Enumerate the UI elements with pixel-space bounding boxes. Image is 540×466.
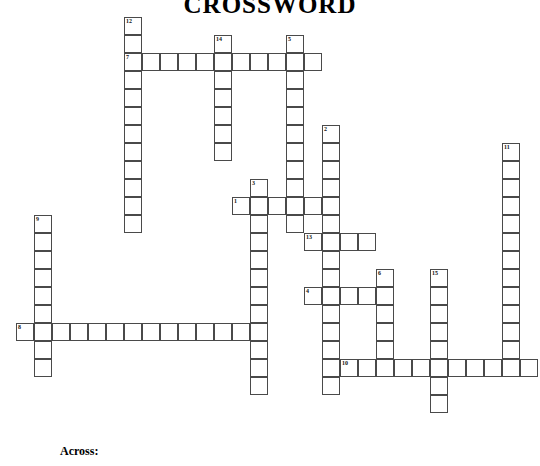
crossword-cell[interactable] (250, 341, 268, 359)
crossword-cell[interactable] (124, 71, 142, 89)
crossword-cell[interactable] (214, 125, 232, 143)
crossword-cell[interactable] (34, 251, 52, 269)
crossword-cell[interactable] (124, 35, 142, 53)
crossword-cell[interactable] (430, 341, 448, 359)
crossword-cell[interactable] (70, 323, 88, 341)
crossword-cell[interactable] (268, 197, 286, 215)
crossword-cell[interactable] (502, 179, 520, 197)
crossword-cell[interactable] (124, 215, 142, 233)
crossword-cell[interactable] (232, 323, 250, 341)
crossword-cell[interactable] (124, 143, 142, 161)
crossword-cell[interactable] (286, 107, 304, 125)
crossword-cell[interactable] (340, 233, 358, 251)
crossword-cell[interactable] (124, 89, 142, 107)
crossword-cell[interactable] (502, 233, 520, 251)
crossword-cell[interactable] (322, 233, 340, 251)
crossword-cell[interactable] (34, 269, 52, 287)
crossword-cell[interactable]: 4 (304, 287, 322, 305)
crossword-cell[interactable] (250, 323, 268, 341)
crossword-cell[interactable] (502, 323, 520, 341)
crossword-cell[interactable] (178, 53, 196, 71)
crossword-cell[interactable] (358, 287, 376, 305)
crossword-cell[interactable] (502, 341, 520, 359)
crossword-cell[interactable] (322, 305, 340, 323)
crossword-cell[interactable]: 2 (322, 125, 340, 143)
crossword-cell[interactable] (286, 197, 304, 215)
crossword-cell[interactable] (250, 251, 268, 269)
crossword-cell[interactable]: 1 (232, 197, 250, 215)
crossword-cell[interactable] (286, 143, 304, 161)
crossword-cell[interactable] (502, 251, 520, 269)
crossword-cell[interactable] (376, 287, 394, 305)
crossword-cell[interactable] (430, 395, 448, 413)
crossword-cell[interactable] (214, 323, 232, 341)
crossword-cell[interactable] (160, 323, 178, 341)
crossword-cell[interactable] (178, 323, 196, 341)
crossword-cell[interactable] (142, 323, 160, 341)
crossword-cell[interactable] (214, 71, 232, 89)
crossword-cell[interactable] (322, 269, 340, 287)
crossword-cell[interactable] (520, 359, 538, 377)
crossword-cell[interactable] (502, 269, 520, 287)
crossword-cell[interactable] (286, 215, 304, 233)
crossword-cell[interactable] (304, 53, 322, 71)
crossword-cell[interactable] (430, 359, 448, 377)
crossword-cell[interactable] (34, 287, 52, 305)
crossword-cell[interactable] (286, 53, 304, 71)
crossword-cell[interactable] (34, 359, 52, 377)
crossword-cell[interactable]: 5 (286, 35, 304, 53)
crossword-cell[interactable] (358, 359, 376, 377)
crossword-cell[interactable] (322, 377, 340, 395)
crossword-cell[interactable] (88, 323, 106, 341)
crossword-cell[interactable] (124, 161, 142, 179)
crossword-grid[interactable]: 127145211319136154810 (0, 0, 540, 430)
crossword-cell[interactable] (430, 323, 448, 341)
crossword-cell[interactable] (196, 323, 214, 341)
crossword-cell[interactable] (214, 53, 232, 71)
crossword-cell[interactable] (286, 161, 304, 179)
crossword-cell[interactable] (430, 305, 448, 323)
crossword-cell[interactable] (142, 53, 160, 71)
crossword-cell[interactable] (340, 287, 358, 305)
crossword-cell[interactable]: 10 (340, 359, 358, 377)
crossword-cell[interactable] (34, 341, 52, 359)
crossword-cell[interactable] (322, 359, 340, 377)
crossword-cell[interactable] (250, 377, 268, 395)
crossword-cell[interactable] (250, 305, 268, 323)
crossword-cell[interactable] (286, 89, 304, 107)
crossword-cell[interactable]: 13 (304, 233, 322, 251)
crossword-cell[interactable] (232, 53, 250, 71)
crossword-cell[interactable] (322, 143, 340, 161)
crossword-cell[interactable]: 15 (430, 269, 448, 287)
crossword-cell[interactable] (52, 323, 70, 341)
crossword-cell[interactable] (322, 215, 340, 233)
crossword-cell[interactable] (322, 161, 340, 179)
crossword-cell[interactable] (430, 377, 448, 395)
crossword-cell[interactable] (250, 269, 268, 287)
crossword-cell[interactable] (502, 359, 520, 377)
crossword-cell[interactable] (322, 323, 340, 341)
crossword-cell[interactable] (322, 251, 340, 269)
crossword-cell[interactable] (124, 323, 142, 341)
crossword-cell[interactable] (484, 359, 502, 377)
crossword-cell[interactable] (376, 323, 394, 341)
crossword-cell[interactable]: 14 (214, 35, 232, 53)
crossword-cell[interactable] (250, 197, 268, 215)
crossword-cell[interactable] (412, 359, 430, 377)
crossword-cell[interactable] (196, 53, 214, 71)
crossword-cell[interactable] (214, 89, 232, 107)
crossword-cell[interactable] (34, 305, 52, 323)
crossword-cell[interactable] (124, 179, 142, 197)
crossword-cell[interactable]: 12 (124, 17, 142, 35)
crossword-cell[interactable] (466, 359, 484, 377)
crossword-cell[interactable] (250, 287, 268, 305)
crossword-cell[interactable] (322, 287, 340, 305)
crossword-cell[interactable] (322, 341, 340, 359)
crossword-cell[interactable]: 6 (376, 269, 394, 287)
crossword-cell[interactable] (376, 305, 394, 323)
crossword-cell[interactable] (358, 233, 376, 251)
crossword-cell[interactable]: 9 (34, 215, 52, 233)
crossword-cell[interactable] (304, 197, 322, 215)
crossword-cell[interactable] (286, 179, 304, 197)
crossword-cell[interactable]: 8 (16, 323, 34, 341)
